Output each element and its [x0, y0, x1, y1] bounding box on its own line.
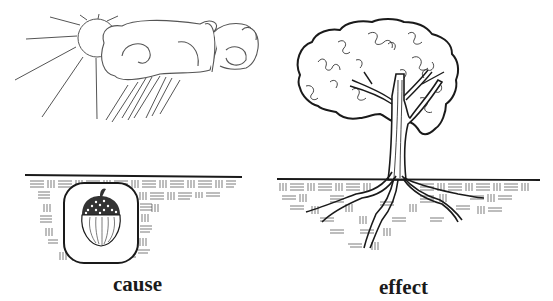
- roots: [306, 172, 484, 248]
- acorn-icon: [64, 183, 138, 263]
- cause-label: cause: [113, 272, 162, 297]
- effect-label: effect: [379, 275, 428, 300]
- cause-effect-illustration: [0, 0, 553, 301]
- oak-tree-icon: [298, 19, 458, 180]
- sun-icon: [15, 14, 118, 119]
- soil-ground: [277, 179, 540, 250]
- rain-icon: [106, 76, 180, 122]
- rain-cloud-icon: [102, 20, 259, 79]
